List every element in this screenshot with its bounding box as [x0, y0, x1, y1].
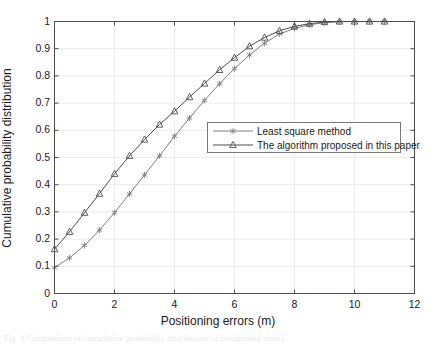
x-tick-label: 6	[215, 298, 255, 310]
legend-label: The algorithm proposed in this paper	[255, 140, 420, 151]
y-tick-label: 0.7	[8, 96, 50, 108]
y-tick-label: 0.1	[8, 259, 50, 271]
x-tick-label: 2	[95, 298, 135, 310]
plot-canvas	[0, 0, 436, 344]
y-tick-label: 0.3	[8, 205, 50, 217]
legend-entry: The algorithm proposed in this paper	[211, 138, 397, 152]
figure-caption: Fig. 8 Comparison of cumulative probabil…	[4, 333, 432, 343]
legend-label: Least square method	[255, 126, 351, 137]
y-axis-title: Cumulative probability distribution	[0, 68, 14, 247]
x-tick-label: 12	[395, 298, 435, 310]
y-tick-label: 1	[8, 15, 50, 27]
x-tick-label: 4	[155, 298, 195, 310]
cdf-chart-figure: 00.10.20.30.40.50.60.70.80.91 024681012 …	[0, 0, 436, 344]
legend-entry: Least square method	[211, 124, 397, 138]
star-marker	[211, 124, 255, 138]
y-tick-label: 0.2	[8, 232, 50, 244]
y-tick-label: 0.8	[8, 69, 50, 81]
chart-legend: Least square methodThe algorithm propose…	[207, 122, 401, 153]
y-tick-label: 0.9	[8, 42, 50, 54]
grid-lines	[55, 22, 415, 294]
y-tick-label: 0.6	[8, 123, 50, 135]
y-tick-label: 0.4	[8, 178, 50, 190]
x-tick-label: 8	[275, 298, 315, 310]
x-tick-label: 10	[335, 298, 375, 310]
y-tick-label: 0.5	[8, 151, 50, 163]
x-axis-title: Positioning errors (m)	[0, 314, 436, 328]
triangle-marker	[211, 138, 255, 152]
x-tick-label: 0	[35, 298, 75, 310]
